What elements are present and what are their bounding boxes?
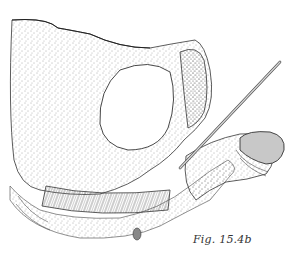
penile-shaft xyxy=(185,132,284,200)
figure-caption: Fig. 15.4b xyxy=(193,233,252,246)
anatomical-illustration xyxy=(0,0,298,265)
